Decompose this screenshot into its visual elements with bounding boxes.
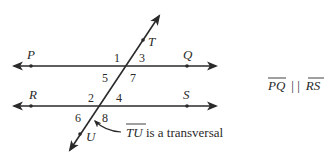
parallel-left-segment: PQ: [267, 78, 286, 93]
point-label-t: T: [148, 34, 156, 49]
point-label-r: R: [28, 87, 37, 102]
parallel-right-segment: RS: [305, 78, 321, 93]
angle-label-4: 4: [116, 91, 122, 105]
parallel-symbol: | |: [291, 78, 299, 93]
point-s-dot: [185, 104, 189, 108]
angle-label-5: 5: [102, 71, 108, 85]
caption-segment-tu: TU: [126, 125, 144, 140]
parallel-statement: PQ| |RS: [267, 78, 321, 93]
angle-label-7: 7: [130, 71, 136, 85]
callout-arrow: [95, 121, 121, 132]
point-label-q: Q: [183, 47, 193, 62]
point-u-dot: [78, 132, 82, 136]
caption-text: is a transversal: [143, 125, 224, 140]
angle-label-1: 1: [114, 51, 120, 65]
point-p-dot: [29, 64, 33, 68]
caption: TU is a transversal: [126, 125, 224, 140]
point-q-dot: [185, 64, 189, 68]
point-label-u: U: [86, 129, 97, 144]
angle-label-8: 8: [102, 111, 108, 125]
point-r-dot: [29, 104, 33, 108]
angle-label-2: 2: [88, 91, 94, 105]
point-label-p: P: [26, 47, 35, 62]
parallel-lines-transversal-diagram: P Q R S T U 1 3 5 7 2 4 6 8 TU is a tran…: [0, 0, 335, 157]
point-label-s: S: [183, 87, 190, 102]
point-t-dot: [141, 38, 145, 42]
angle-label-6: 6: [75, 111, 81, 125]
angle-label-3: 3: [139, 51, 145, 65]
